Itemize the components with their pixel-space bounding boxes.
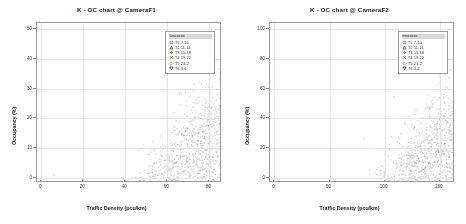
y-tick	[266, 28, 268, 29]
x-tick-label: 80	[206, 184, 211, 189]
x-tick	[124, 180, 125, 182]
grid-line	[270, 29, 453, 30]
y-tick-label: 30	[14, 85, 32, 90]
x-tick-label: 0	[39, 184, 42, 189]
y-tick-label: 80	[247, 55, 265, 60]
y-tick-label: 100	[247, 25, 265, 30]
x-tick-label: 50	[326, 184, 331, 189]
grid-line	[83, 23, 84, 181]
grid-line	[37, 148, 220, 149]
legend-item[interactable]: T6 3-6	[169, 66, 212, 71]
y-tick	[33, 88, 35, 89]
y-tick	[33, 177, 35, 178]
legend-title: timezone	[169, 34, 212, 39]
x-axis-title: Traffic Density (pcu/km)	[0, 205, 233, 211]
grid-line	[270, 148, 453, 149]
legend-item-label: T6 3-6	[175, 66, 187, 71]
legend[interactable]: timezone T1 7-10T2 11-14T3 15-18T4 19-22…	[398, 31, 448, 74]
y-tick-label: 20	[247, 145, 265, 150]
x-axis-title: Traffic Density (pcu/km)	[233, 205, 466, 211]
x-tick	[329, 180, 330, 182]
y-tick	[266, 58, 268, 59]
grid-line	[37, 89, 220, 90]
y-tick	[33, 117, 35, 118]
x-tick-label: 150	[435, 184, 443, 189]
triangle-down-icon	[402, 66, 407, 71]
y-axis-title: Occupancy (%)	[11, 107, 17, 145]
x-tick-label: 0	[272, 184, 275, 189]
grid-line	[274, 23, 275, 181]
x-tick	[82, 180, 83, 182]
grid-line	[37, 118, 220, 119]
y-tick-label: 60	[247, 85, 265, 90]
y-tick-label: 0	[247, 175, 265, 180]
grid-line	[41, 23, 42, 181]
x-tick-label: 60	[164, 184, 169, 189]
y-tick	[266, 177, 268, 178]
x-tick	[166, 180, 167, 182]
y-tick	[33, 147, 35, 148]
legend[interactable]: timezone T1 7-10T2 11-14T3 15-18T4 19-22…	[165, 31, 215, 74]
chart-title: K - OC chart @ CameraF2	[233, 6, 466, 13]
y-tick-label: 40	[14, 55, 32, 60]
x-tick	[384, 180, 385, 182]
grid-line	[385, 23, 386, 181]
y-tick	[266, 88, 268, 89]
y-tick	[266, 117, 268, 118]
y-tick	[33, 28, 35, 29]
legend-item[interactable]: T6 3-6	[402, 66, 445, 71]
chart-panel-camera-f2: K - OC chart @ CameraF2 0501001500204060…	[233, 0, 466, 224]
x-tick	[40, 180, 41, 182]
figure-sheet: K - OC chart @ CameraF1 0204060800102030…	[0, 0, 466, 224]
chart-title: K - OC chart @ CameraF1	[0, 6, 233, 13]
grid-line	[37, 29, 220, 30]
grid-line	[270, 118, 453, 119]
grid-line	[37, 178, 220, 179]
grid-line	[125, 23, 126, 181]
x-tick-label: 100	[380, 184, 388, 189]
y-tick-label: 10	[14, 145, 32, 150]
x-tick	[439, 180, 440, 182]
legend-item-label: T6 3-6	[408, 66, 420, 71]
y-tick	[33, 58, 35, 59]
x-tick-label: 20	[80, 184, 85, 189]
y-axis-title: Occupancy (%)	[244, 107, 250, 145]
triangle-down-icon	[169, 66, 174, 71]
legend-title: timezone	[402, 34, 445, 39]
x-tick-label: 40	[122, 184, 127, 189]
x-tick	[273, 180, 274, 182]
grid-line	[270, 178, 453, 179]
y-tick	[266, 147, 268, 148]
grid-line	[330, 23, 331, 181]
y-tick-label: 0	[14, 175, 32, 180]
x-tick	[208, 180, 209, 182]
chart-panel-camera-f1: K - OC chart @ CameraF1 0204060800102030…	[0, 0, 233, 224]
grid-line	[270, 89, 453, 90]
y-tick-label: 50	[14, 25, 32, 30]
